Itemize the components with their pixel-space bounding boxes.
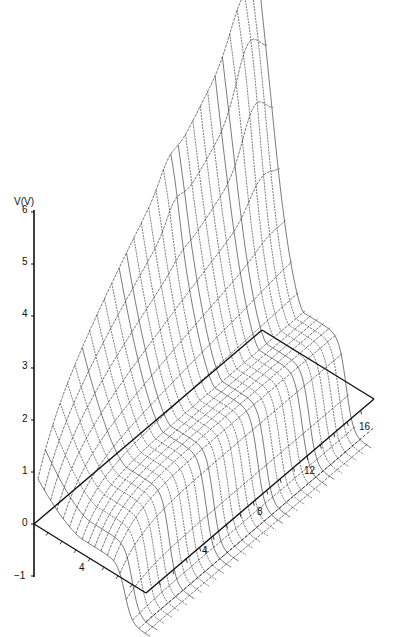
z-tick-4: 4 [22,309,28,319]
surface-plot [0,0,399,637]
z-tick-5: 5 [22,257,28,267]
wireframe-mesh [38,0,371,636]
z-tick-3: 3 [22,361,28,371]
axes [31,210,374,622]
y-tick-4: 4 [202,546,208,556]
z-tick-2: 2 [22,414,28,424]
y-tick-12: 12 [304,466,315,476]
z-tick-6: 6 [22,205,28,215]
z-tick-1: 1 [22,466,28,476]
z-tick-0: 0 [22,518,28,528]
z-tick-minus1: −1 [14,571,25,581]
y-tick-16: 16 [359,422,370,432]
x-tick-4: 4 [79,563,85,573]
y-tick-8: 8 [257,507,263,517]
